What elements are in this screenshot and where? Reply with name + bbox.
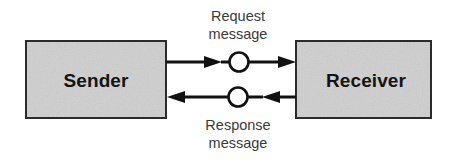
node-receiver[interactable]: Receiver	[296, 41, 431, 118]
request-arrowhead-right	[278, 56, 296, 68]
response-arrowhead-right	[262, 91, 280, 103]
response-junction-circle[interactable]	[229, 88, 248, 107]
response-label-line2: message	[209, 135, 268, 151]
edge-response-flow[interactable]	[167, 88, 296, 107]
request-message-label: Request message	[209, 8, 268, 42]
diagram-canvas: Sender Receiver	[0, 0, 455, 163]
edge-request-flow[interactable]	[166, 53, 296, 72]
node-sender[interactable]: Sender	[26, 41, 166, 118]
sequence-flow-diagram: Sender Receiver	[0, 0, 455, 163]
request-label-line2: message	[209, 26, 268, 42]
request-label-line1: Request	[211, 8, 265, 24]
receiver-label: Receiver	[326, 70, 407, 91]
response-message-label: Response message	[205, 117, 270, 151]
sender-label: Sender	[63, 70, 129, 91]
request-junction-circle[interactable]	[230, 53, 249, 72]
response-arrowhead-left	[167, 91, 185, 103]
response-label-line1: Response	[205, 117, 270, 133]
request-arrowhead-left	[204, 56, 222, 68]
